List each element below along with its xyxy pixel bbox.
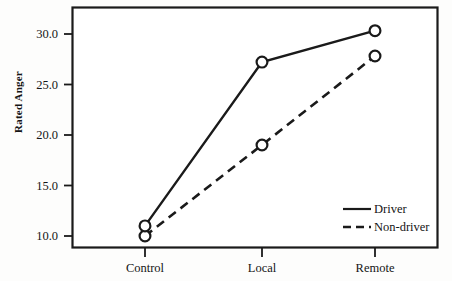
y-axis-ticks xyxy=(64,34,72,236)
y-tick-label-20: 20.0 xyxy=(14,129,58,142)
data-point-marker xyxy=(257,57,268,68)
data-point-marker xyxy=(140,221,151,232)
y-tick-label-25: 25.0 xyxy=(14,79,58,92)
y-tick-label-15: 15.0 xyxy=(14,180,58,193)
y-tick-label-10: 10.0 xyxy=(14,230,58,243)
x-tick-label-control: Control xyxy=(100,262,190,275)
line-chart-figure: Rated Anger 30.0 25.0 20.0 15.0 10.0 Con… xyxy=(0,0,452,281)
x-tick-label-remote: Remote xyxy=(330,262,420,275)
y-tick-label-30: 30.0 xyxy=(14,28,58,41)
data-point-marker xyxy=(370,25,381,36)
data-point-marker xyxy=(370,51,381,62)
chart-canvas xyxy=(0,0,452,281)
x-tick-label-local: Local xyxy=(217,262,307,275)
legend-label-driver: Driver xyxy=(374,203,407,216)
data-point-marker xyxy=(257,140,268,151)
legend-label-non-driver: Non-driver xyxy=(374,221,430,234)
